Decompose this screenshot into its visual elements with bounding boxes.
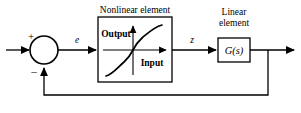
z-signal-label: z	[189, 35, 194, 45]
error-signal-label: e	[75, 35, 79, 45]
nonlinear-output-axis-label: Output	[101, 29, 131, 39]
linear-element-caption-line1: Linear	[222, 7, 248, 17]
transfer-function-label: G(s)	[225, 45, 244, 57]
block-diagram-canvas: + – e Nonlinear element Output Input	[0, 0, 301, 113]
nonlinear-element-caption: Nonlinear element	[100, 5, 171, 15]
nonlinear-element-block[interactable]: Output Input	[98, 17, 172, 82]
summing-junction-circle[interactable]	[30, 36, 58, 64]
linear-element-block[interactable]: G(s)	[218, 38, 250, 62]
nonlinear-input-axis-label: Input	[141, 58, 165, 68]
summing-junction[interactable]	[30, 36, 58, 64]
summing-junction-minus-sign: –	[30, 65, 37, 77]
linear-element-caption-line2: element	[219, 18, 249, 28]
block-diagram-svg: + – e Nonlinear element Output Input	[0, 0, 301, 113]
